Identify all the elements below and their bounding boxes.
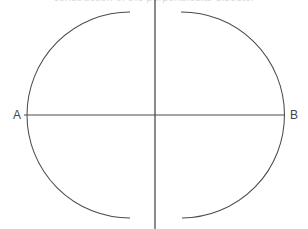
point-label-b: B <box>290 109 298 121</box>
geometric-construction-figure: construction of the perpendicular bisect… <box>0 0 308 229</box>
point-label-a: A <box>13 109 21 121</box>
construction-drawing <box>0 0 308 229</box>
